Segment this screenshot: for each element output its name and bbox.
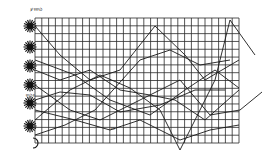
top-label: ꝟꝛꝛꝰꝺ: [30, 6, 42, 12]
star-2-icon: [24, 41, 37, 54]
side-label: ꝛꝰꝺꝛ: [25, 92, 34, 98]
star-5-icon: [24, 97, 37, 110]
star-3-icon: [24, 60, 37, 73]
star-1-icon: [24, 20, 37, 33]
star-6-icon: [24, 120, 37, 133]
bottom-label: ꝛꝛ: [110, 125, 114, 131]
curve-2: [35, 20, 255, 150]
planetary-latitude-diagram: [0, 0, 267, 164]
planet-symbols: [24, 20, 39, 149]
star-4-icon: [24, 79, 37, 92]
